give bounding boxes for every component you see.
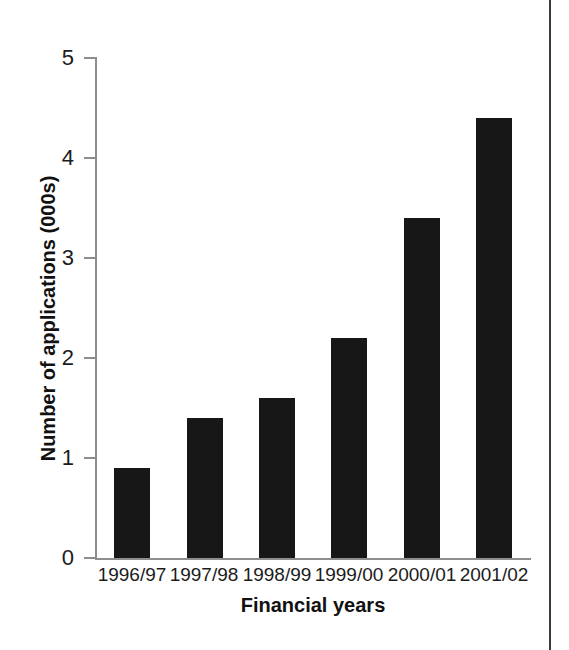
y-axis-ticks: 012345	[0, 0, 96, 650]
y-axis-tick-label: 1	[48, 447, 74, 469]
page-border-line	[549, 0, 551, 650]
y-axis-tick-label: 3	[48, 247, 74, 269]
bar-1999-00[interactable]	[331, 338, 367, 558]
bar-1998-99[interactable]	[259, 398, 295, 558]
x-axis-tick-labels: 1996/971997/981998/991999/002000/012001/…	[96, 563, 530, 593]
bar-1997-98[interactable]	[187, 418, 223, 558]
x-axis-tick-label: 2001/02	[446, 563, 542, 587]
bar-2000-01[interactable]	[404, 218, 440, 558]
page-canvas: Number of applications (000s) 012345 199…	[0, 0, 569, 650]
y-axis-tick-label: 0	[48, 547, 74, 569]
bar-1996-97[interactable]	[114, 468, 150, 558]
x-axis-title: Financial years	[96, 594, 530, 617]
y-axis-tick-label: 4	[48, 147, 74, 169]
y-axis-tick-label: 2	[48, 347, 74, 369]
bar-2001-02[interactable]	[476, 118, 512, 558]
bar-series	[96, 0, 530, 650]
y-axis-tick-label: 5	[48, 47, 74, 69]
bar-chart: Number of applications (000s) 012345 199…	[0, 0, 549, 650]
